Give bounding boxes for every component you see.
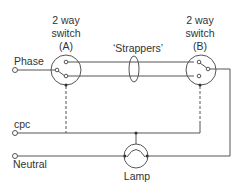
strappers-label: ‘Strappers’ xyxy=(113,42,163,54)
switch-b-body-visible xyxy=(186,55,216,85)
switch-a-label-line2: switch xyxy=(51,27,80,39)
lamp-label: Lamp xyxy=(124,170,150,182)
lamp-left-terminal-dot xyxy=(124,155,127,158)
cpc-terminal xyxy=(13,131,18,136)
switch-b-lower-contact xyxy=(197,74,201,78)
switch-a-label-line1: 2 way xyxy=(52,14,80,26)
two-way-switch-diagram: 2 way switch (A) 2 way switch (B) ‘Strap… xyxy=(0,0,245,192)
phase-label: Phase xyxy=(14,55,44,67)
switch-a-upper-contact xyxy=(64,60,68,64)
switch-a-lower-contact xyxy=(64,74,68,78)
switch-b-label-line1: 2 way xyxy=(186,14,214,26)
switch-b-label-line3: (B) xyxy=(193,40,207,52)
switch-b-common-contact xyxy=(206,67,210,71)
lamp-cpc-junction-dot xyxy=(135,132,138,135)
switch-a-common-contact xyxy=(55,68,59,72)
switch-b-lever xyxy=(200,63,207,68)
switch-b-upper-contact xyxy=(197,60,201,64)
switch-a-earth-dot xyxy=(65,84,68,87)
strappers-grouping-ellipse xyxy=(129,56,139,82)
lamp-filament xyxy=(127,150,145,158)
switch-a-label-line3: (A) xyxy=(59,40,73,52)
switch-b-label-line2: switch xyxy=(185,27,214,39)
phase-terminal xyxy=(13,68,18,73)
switch-b-earth-dot xyxy=(199,84,202,87)
neutral-label: Neutral xyxy=(13,158,47,170)
cpc-label: cpc xyxy=(14,118,30,130)
lamp-right-terminal-dot xyxy=(146,155,149,158)
